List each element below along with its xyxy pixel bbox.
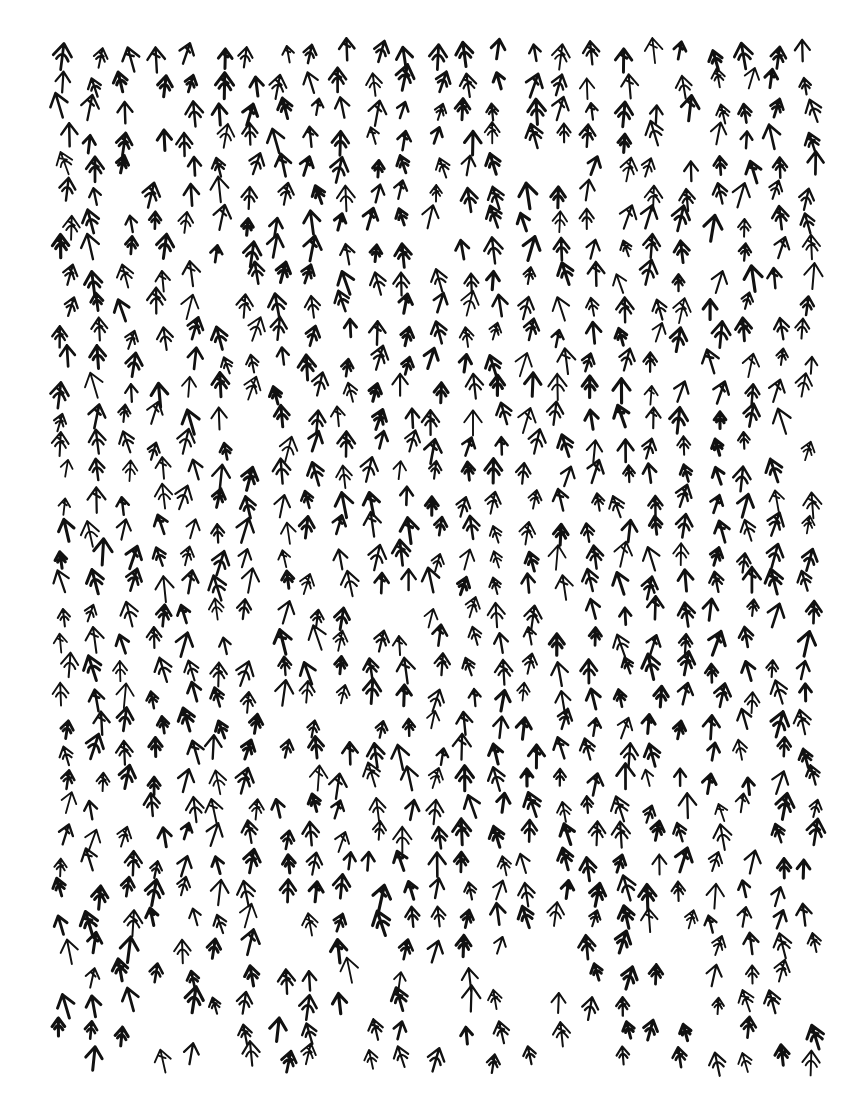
arrow-mark bbox=[486, 824, 507, 849]
arrow-mark bbox=[793, 372, 814, 398]
arrow-mark bbox=[332, 131, 349, 155]
arrow-mark bbox=[87, 487, 105, 513]
arrow-mark bbox=[87, 688, 106, 712]
arrow-mark bbox=[147, 288, 165, 314]
arrow-mark bbox=[86, 403, 108, 430]
arrow-mark bbox=[83, 270, 104, 297]
arrow-mark bbox=[327, 772, 348, 800]
arrow-mark bbox=[111, 297, 133, 324]
arrow-mark bbox=[241, 187, 257, 210]
arrow-mark bbox=[153, 483, 173, 510]
arrow-mark bbox=[419, 203, 441, 230]
arrow-mark bbox=[744, 692, 760, 714]
arrow-mark bbox=[549, 94, 572, 122]
arrow-mark bbox=[369, 183, 386, 204]
arrow-mark bbox=[394, 243, 413, 268]
arrow-mark bbox=[246, 151, 268, 177]
arrow-mark bbox=[587, 717, 602, 737]
arrow-mark bbox=[459, 435, 478, 457]
arrow-mark bbox=[549, 294, 573, 323]
arrow-mark bbox=[771, 958, 792, 984]
arrow-mark bbox=[275, 599, 297, 626]
arrow-mark bbox=[579, 179, 597, 202]
arrow-mark bbox=[232, 766, 257, 796]
arrow-mark bbox=[365, 72, 384, 96]
arrow-mark bbox=[51, 432, 69, 457]
arrow-mark bbox=[802, 131, 823, 156]
arrow-mark bbox=[643, 352, 657, 371]
arrow-mark bbox=[180, 569, 200, 594]
arrow-mark bbox=[83, 567, 106, 596]
arrow-mark bbox=[327, 155, 351, 185]
arrow-mark bbox=[114, 1027, 129, 1047]
arrow-mark bbox=[616, 904, 637, 930]
arrow-mark bbox=[739, 660, 758, 683]
arrow-mark bbox=[428, 267, 450, 294]
arrow-mark bbox=[611, 540, 634, 569]
arrow-mark bbox=[300, 70, 321, 95]
arrow-mark bbox=[331, 912, 349, 933]
arrow-mark bbox=[244, 314, 269, 343]
arrow-mark bbox=[299, 1042, 319, 1066]
arrow-mark bbox=[58, 938, 80, 966]
arrow-mark bbox=[211, 524, 225, 543]
arrow-mark bbox=[179, 822, 195, 841]
arrow-mark bbox=[390, 849, 410, 873]
arrow-mark bbox=[589, 627, 602, 645]
arrow-mark bbox=[59, 720, 74, 739]
arrow-mark bbox=[550, 735, 571, 761]
arrow-mark bbox=[119, 936, 140, 964]
arrow-mark bbox=[425, 687, 447, 714]
arrow-mark bbox=[553, 524, 569, 546]
arrow-mark bbox=[485, 1053, 501, 1073]
arrow-mark bbox=[392, 374, 407, 396]
arrow-mark bbox=[331, 993, 347, 1015]
arrow-mark bbox=[489, 902, 507, 925]
arrow-mark bbox=[146, 627, 161, 648]
arrow-mark bbox=[767, 678, 790, 706]
arrow-mark bbox=[301, 234, 323, 262]
arrow-mark bbox=[458, 72, 478, 98]
arrow-mark bbox=[397, 938, 415, 961]
arrow-mark bbox=[148, 962, 164, 983]
arrow-mark bbox=[668, 326, 689, 353]
arrow-mark bbox=[85, 1046, 104, 1071]
arrow-mark bbox=[644, 385, 659, 405]
arrow-mark bbox=[124, 352, 144, 378]
arrow-mark bbox=[333, 96, 351, 119]
arrow-mark bbox=[217, 636, 232, 655]
arrow-mark bbox=[373, 430, 389, 450]
arrow-mark bbox=[578, 935, 597, 960]
arrow-mark bbox=[184, 738, 207, 765]
arrow-mark bbox=[805, 356, 818, 374]
arrow-mark bbox=[678, 793, 696, 818]
arrow-mark bbox=[422, 410, 439, 435]
arrow-mark bbox=[152, 1048, 173, 1074]
arrow-mark bbox=[113, 633, 132, 656]
arrow-mark bbox=[154, 575, 175, 603]
arrow-mark bbox=[155, 456, 172, 479]
arrow-mark bbox=[769, 406, 795, 437]
arrow-mark bbox=[485, 185, 507, 212]
arrow-mark bbox=[738, 432, 751, 449]
arrow-mark bbox=[369, 321, 386, 345]
arrow-mark bbox=[268, 1017, 287, 1042]
arrow-mark bbox=[583, 409, 599, 430]
arrow-mark bbox=[616, 997, 629, 1016]
arrow-mark bbox=[362, 678, 381, 704]
arrow-mark bbox=[709, 121, 729, 146]
arrow-mark bbox=[557, 464, 577, 488]
arrow-mark bbox=[737, 626, 754, 648]
arrow-mark bbox=[150, 545, 169, 568]
arrow-mark bbox=[89, 345, 107, 369]
arrow-mark bbox=[610, 403, 633, 430]
arrow-mark bbox=[275, 96, 295, 120]
arrow-mark bbox=[518, 521, 537, 546]
arrow-mark bbox=[243, 965, 261, 988]
arrow-mark bbox=[403, 719, 415, 736]
arrow-mark bbox=[115, 683, 135, 709]
arrow-mark bbox=[332, 212, 348, 231]
arrow-mark bbox=[771, 205, 790, 230]
arrow-mark bbox=[488, 549, 505, 569]
arrow-mark bbox=[487, 576, 503, 596]
